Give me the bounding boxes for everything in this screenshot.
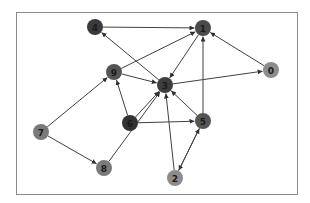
node-label: 3	[162, 81, 168, 91]
edge-0-to-1	[210, 32, 264, 65]
edge-2-to-3	[166, 93, 174, 170]
node-label: 0	[268, 66, 274, 76]
node-8: 8	[96, 160, 112, 176]
node-3: 3	[157, 77, 173, 93]
node-7: 7	[33, 124, 49, 140]
node-9: 9	[106, 64, 122, 80]
node-label: 2	[172, 174, 178, 184]
edge-9-to-1	[121, 32, 195, 69]
edge-7-to-9	[47, 77, 107, 127]
plot-frame	[17, 13, 298, 195]
edges-layer	[47, 27, 264, 171]
node-6: 6	[122, 115, 138, 131]
node-4: 4	[87, 19, 103, 35]
edge-3-to-0	[173, 71, 263, 84]
node-label: 1	[200, 24, 206, 34]
node-5: 5	[195, 113, 211, 129]
node-label: 9	[111, 68, 117, 78]
node-1: 1	[195, 20, 211, 36]
edge-4-to-1	[103, 27, 195, 28]
edge-6-to-3	[135, 91, 159, 117]
edge-7-to-8	[48, 136, 97, 164]
edge-9-to-3	[122, 74, 157, 83]
edge-5-to-3	[171, 91, 197, 116]
edge-1-to-3	[170, 35, 199, 78]
node-0: 0	[263, 62, 279, 78]
edge-6-to-5	[138, 121, 195, 123]
edge-6-to-9	[117, 80, 128, 115]
node-label: 4	[92, 23, 98, 33]
node-label: 5	[200, 117, 206, 127]
node-label: 6	[127, 119, 133, 129]
node-2: 2	[167, 170, 183, 186]
node-label: 7	[38, 128, 44, 138]
nodes-layer: 0123456789	[33, 19, 279, 186]
graph-diagram: 0123456789	[0, 0, 310, 203]
node-label: 8	[101, 164, 107, 174]
edge-2-to-5	[179, 129, 200, 171]
